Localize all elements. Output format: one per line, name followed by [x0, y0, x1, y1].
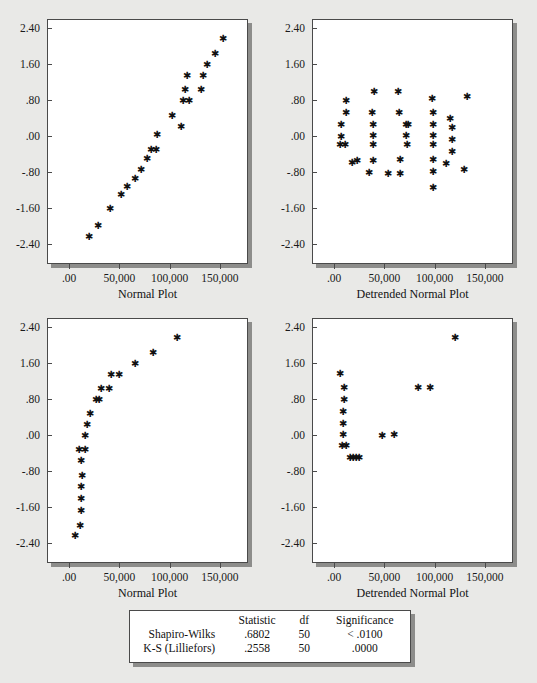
y-axis-tick	[312, 507, 317, 508]
data-point-marker: ✱	[353, 156, 360, 165]
x-axis-tick-label: 100,000	[416, 571, 453, 583]
data-point-marker: ✱	[77, 456, 84, 465]
x-axis-tick-label: 150,000	[466, 571, 503, 583]
data-point-marker: ✱	[168, 111, 175, 120]
y-axis-tick-label: -1.60	[16, 501, 40, 513]
data-point-marker: ✱	[429, 167, 436, 176]
y-axis-tick-label: .00	[26, 130, 40, 142]
data-point-marker: ✱	[340, 383, 347, 392]
y-axis-tick	[47, 363, 52, 364]
y-axis-tick	[312, 136, 317, 137]
x-axis-tick	[69, 563, 70, 568]
data-point-marker: ✱	[95, 395, 102, 404]
data-point-marker: ✱	[97, 384, 104, 393]
x-axis-tick	[334, 563, 335, 568]
y-axis-tick-label: .00	[291, 130, 305, 142]
table-cell-df: 50	[289, 627, 320, 641]
x-axis-tick-label: 150,000	[466, 272, 503, 284]
x-axis-tick	[69, 264, 70, 269]
y-axis-tick	[312, 208, 317, 209]
y-axis-tick	[312, 327, 317, 328]
data-point-marker: ✱	[107, 370, 114, 379]
y-axis-tick-label: -1.60	[281, 501, 305, 513]
y-axis-tick	[312, 471, 317, 472]
plot-panel-detrended-normal-plot-top: ✱✱✱✱✱✱✱✱✱✱✱✱✱✱✱✱✱✱✱✱✱✱✱✱✱✱✱✱✱✱✱✱✱✱✱✱✱✱✱2…	[312, 19, 513, 264]
y-axis-tick	[47, 507, 52, 508]
data-point-marker: ✱	[85, 232, 92, 241]
table-cell-test-name: Shapiro-Wilks	[130, 627, 225, 641]
table-cell-significance: .0000	[320, 641, 410, 655]
y-axis-tick-label: 1.60	[20, 58, 40, 70]
data-point-marker: ✱	[76, 521, 83, 530]
y-axis-tick-label: 2.40	[20, 22, 40, 34]
table-cell-df: 50	[289, 641, 320, 655]
table-header-df: df	[289, 611, 320, 627]
y-axis-tick-label: .00	[291, 429, 305, 441]
data-point-marker: ✱	[369, 156, 376, 165]
data-point-marker: ✱	[448, 135, 455, 144]
normality-tests-table: Statistic df Significance Shapiro-Wilks …	[129, 610, 411, 663]
data-point-marker: ✱	[137, 165, 144, 174]
data-point-marker: ✱	[342, 441, 349, 450]
x-axis-tick-label: 50,000	[369, 272, 401, 284]
data-point-marker: ✱	[337, 120, 344, 129]
data-point-marker: ✱	[384, 169, 391, 178]
y-axis-tick	[312, 28, 317, 29]
data-point-marker: ✱	[131, 359, 138, 368]
page-canvas: ✱✱✱✱✱✱✱✱✱✱✱✱✱✱✱✱✱✱✱✱✱✱2.401.60.80.00-.80…	[0, 0, 537, 683]
data-point-marker: ✱	[370, 87, 377, 96]
y-axis-tick-label: .80	[291, 94, 305, 106]
x-axis-tick	[119, 264, 120, 269]
data-point-marker: ✱	[123, 182, 130, 191]
x-axis-tick	[485, 264, 486, 269]
y-axis-tick	[47, 208, 52, 209]
x-axis-tick	[170, 264, 171, 269]
data-point-marker: ✱	[428, 94, 435, 103]
data-point-marker: ✱	[339, 407, 346, 416]
stats-table: Statistic df Significance Shapiro-Wilks …	[130, 611, 410, 655]
data-point-marker: ✱	[83, 420, 90, 429]
table-header-significance: Significance	[320, 611, 410, 627]
x-axis-title: Normal Plot	[47, 287, 248, 302]
y-axis-tick	[47, 435, 52, 436]
x-axis-tick-label: .00	[62, 272, 76, 284]
data-point-marker: ✱	[203, 60, 210, 69]
y-axis-tick-label: .00	[26, 429, 40, 441]
x-axis-tick-label: .00	[327, 272, 341, 284]
y-axis-tick	[47, 244, 52, 245]
plot-panel-normal-plot-bottom: ✱✱✱✱✱✱✱✱✱✱✱✱✱✱✱✱✱✱✱✱✱2.401.60.80.00-.80-…	[47, 318, 248, 563]
y-axis-tick	[47, 399, 52, 400]
x-axis-tick-label: 100,000	[416, 272, 453, 284]
table-cell-statistic: .2558	[225, 641, 289, 655]
y-axis-tick-label: -2.40	[281, 238, 305, 250]
data-point-marker: ✱	[181, 85, 188, 94]
y-axis-tick-label: -.80	[22, 166, 40, 178]
data-point-marker: ✱	[369, 120, 376, 129]
x-axis-tick-label: 50,000	[104, 272, 136, 284]
data-point-marker: ✱	[197, 85, 204, 94]
x-axis-tick	[220, 563, 221, 568]
data-point-marker: ✱	[342, 96, 349, 105]
x-axis-tick-label: .00	[327, 571, 341, 583]
x-axis-tick	[384, 264, 385, 269]
data-point-marker: ✱	[115, 370, 122, 379]
y-axis-tick-label: 2.40	[285, 321, 305, 333]
data-point-marker: ✱	[143, 154, 150, 163]
data-point-layer: ✱✱✱✱✱✱✱✱✱✱✱✱✱✱✱✱✱✱✱✱✱	[48, 319, 247, 562]
table-row: Shapiro-Wilks .6802 50 < .0100	[130, 627, 410, 641]
data-point-marker: ✱	[173, 333, 180, 342]
plot-panel-normal-plot-top: ✱✱✱✱✱✱✱✱✱✱✱✱✱✱✱✱✱✱✱✱✱✱2.401.60.80.00-.80…	[47, 19, 248, 264]
x-axis-tick	[435, 264, 436, 269]
data-point-marker: ✱	[77, 506, 84, 515]
y-axis-tick-label: 1.60	[285, 58, 305, 70]
y-axis-tick-label: -.80	[287, 465, 305, 477]
data-point-marker: ✱	[71, 531, 78, 540]
data-point-marker: ✱	[451, 333, 458, 342]
y-axis-tick-label: 1.60	[20, 357, 40, 369]
data-point-marker: ✱	[78, 471, 85, 480]
table-cell-statistic: .6802	[225, 627, 289, 641]
y-axis-tick	[47, 136, 52, 137]
data-point-marker: ✱	[153, 130, 160, 139]
data-point-marker: ✱	[342, 108, 349, 117]
y-axis-tick	[312, 100, 317, 101]
